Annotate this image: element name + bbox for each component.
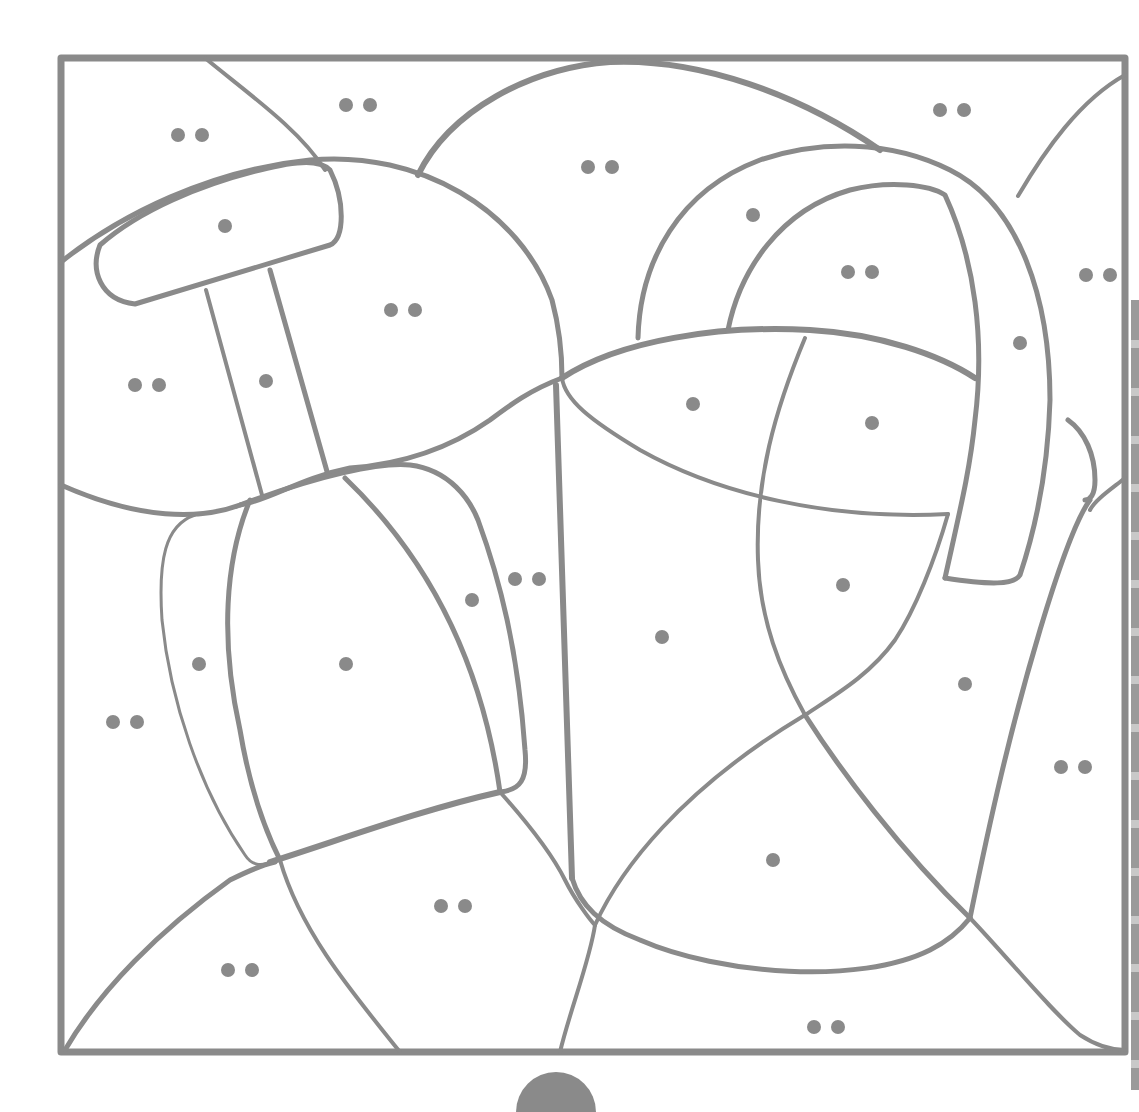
single-dot-marker	[218, 219, 232, 233]
dot-icon	[1079, 268, 1093, 282]
dot-icon	[605, 160, 619, 174]
bucket-rim-divider	[758, 338, 805, 715]
dot-icon	[384, 303, 398, 317]
shovel-scoop-inner-right	[345, 478, 500, 792]
bucket-rim-bottom	[562, 378, 948, 515]
bucket-body-right	[805, 514, 948, 715]
dot-icon	[532, 572, 546, 586]
single-dot-marker	[259, 374, 273, 388]
dot-icon	[171, 128, 185, 142]
dot-icon	[130, 715, 144, 729]
dot-icon	[363, 98, 377, 112]
dot-icon	[408, 303, 422, 317]
single-dot-marker	[192, 657, 206, 671]
dot-icon	[128, 378, 142, 392]
dot-icon	[152, 378, 166, 392]
single-dot-marker	[766, 853, 780, 867]
dot-icon	[746, 208, 760, 222]
double-dot-marker	[128, 378, 166, 392]
single-dot-marker	[746, 208, 760, 222]
shovel-bowl-bottom	[61, 378, 562, 515]
double-dot-marker	[171, 128, 209, 142]
dot-icon	[655, 630, 669, 644]
shovel-shaft-right	[270, 270, 328, 475]
single-dot-marker	[339, 657, 353, 671]
double-dot-marker	[508, 572, 546, 586]
sand-line-shovel-tail	[280, 860, 400, 1052]
region-line-topleft-diagonal	[205, 58, 325, 170]
dot-icon	[465, 593, 479, 607]
double-dot-marker	[933, 103, 971, 117]
sand-line-bottom-right	[970, 918, 1125, 1050]
bucket-handle-knob	[1068, 420, 1095, 500]
dot-icon	[106, 715, 120, 729]
dot-icon	[1103, 268, 1117, 282]
dot-icon	[957, 103, 971, 117]
single-dot-marker	[1013, 336, 1027, 350]
double-dot-marker	[807, 1020, 845, 1034]
bucket-handle-outer	[638, 146, 1050, 583]
dot-icon	[865, 416, 879, 430]
region-line-right-arc	[1018, 75, 1125, 196]
single-dot-marker	[865, 416, 879, 430]
shovel-scoop-bottom	[270, 792, 500, 862]
dot-icon	[933, 103, 947, 117]
page-edge-strip	[1131, 300, 1139, 1090]
double-dot-marker	[841, 265, 879, 279]
dot-icon	[1078, 760, 1092, 774]
double-dot-marker	[339, 98, 377, 112]
single-dot-marker	[836, 578, 850, 592]
dot-icon	[958, 677, 972, 691]
single-dot-marker	[655, 630, 669, 644]
shovel-shaft-left	[206, 290, 262, 495]
sand-line-left-arc	[65, 862, 275, 1050]
double-dot-marker	[1079, 268, 1117, 282]
double-dot-marker	[434, 899, 472, 913]
bucket-left-side	[556, 385, 572, 878]
dot-icon	[508, 572, 522, 586]
dot-icon	[831, 1020, 845, 1034]
bucket-handle-inner	[728, 185, 979, 578]
single-dot-marker	[958, 677, 972, 691]
shovel-grip	[96, 163, 341, 305]
double-dot-marker	[581, 160, 619, 174]
page-frame	[61, 58, 1125, 1052]
dot-icon	[766, 853, 780, 867]
single-dot-marker	[686, 397, 700, 411]
single-dot-marker	[465, 593, 479, 607]
dot-icon	[807, 1020, 821, 1034]
dot-icon	[836, 578, 850, 592]
dot-icon	[1013, 336, 1027, 350]
sand-line-bucket-cross	[595, 715, 805, 925]
region-line-big-dome	[418, 62, 880, 175]
double-dot-marker	[1054, 760, 1092, 774]
shovel-scoop-inner-left	[228, 500, 280, 860]
dot-icon	[259, 374, 273, 388]
dot-icon	[245, 963, 259, 977]
dot-icon	[841, 265, 855, 279]
dot-icon	[686, 397, 700, 411]
dot-icon	[581, 160, 595, 174]
dot-icon	[434, 899, 448, 913]
dot-icon	[865, 265, 879, 279]
shovel-scoop-outer	[240, 465, 526, 792]
shovel-bowl-outline	[61, 159, 562, 378]
bucket-rim-top	[562, 329, 975, 378]
sand-line-shovel-right	[500, 792, 595, 925]
dot-icon	[339, 98, 353, 112]
dot-icon	[339, 657, 353, 671]
dot-icon	[221, 963, 235, 977]
bucket-right-side	[970, 500, 1090, 918]
dot-icon	[195, 128, 209, 142]
dot-icon	[192, 657, 206, 671]
double-dot-marker	[384, 303, 422, 317]
double-dot-marker	[221, 963, 259, 977]
double-dot-marker	[106, 715, 144, 729]
sand-line-bucket-left	[560, 925, 595, 1052]
bucket-body-curve	[805, 715, 970, 918]
dot-icon	[1054, 760, 1068, 774]
bucket-bottom-curve	[572, 878, 970, 972]
dot-icon	[458, 899, 472, 913]
dot-icon	[218, 219, 232, 233]
